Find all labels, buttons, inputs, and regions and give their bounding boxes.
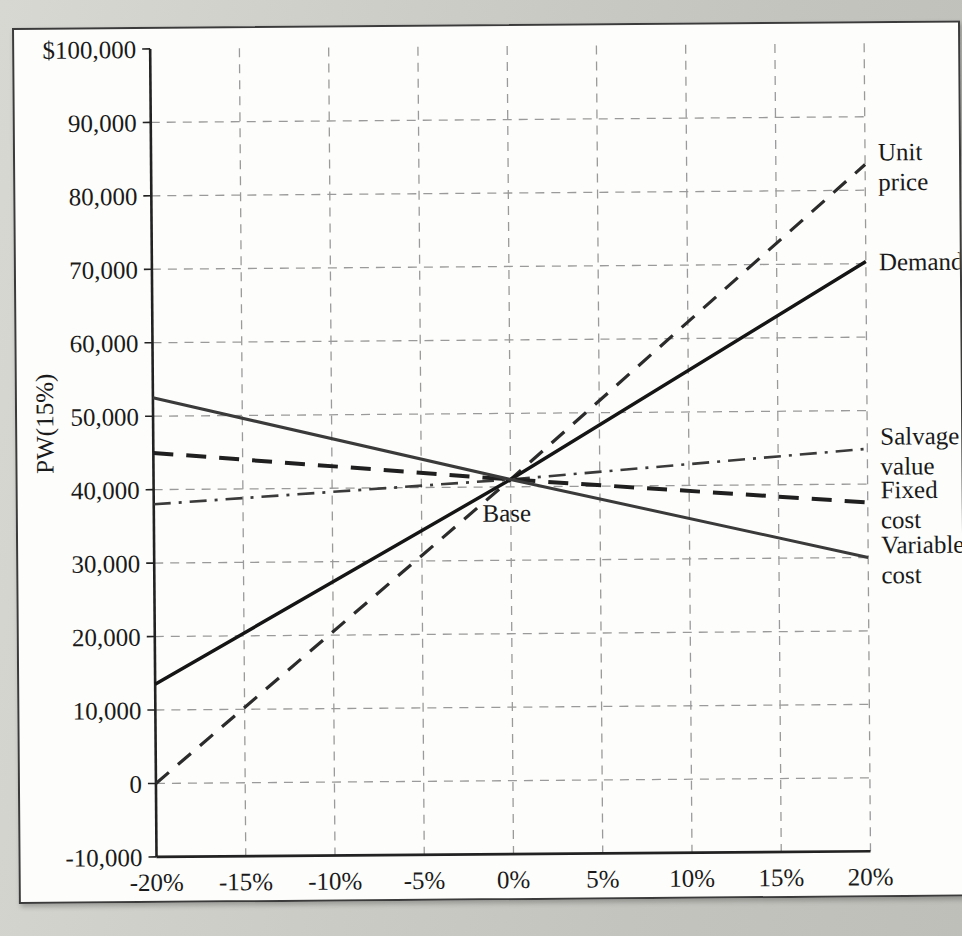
base-annotation: Base <box>482 499 531 526</box>
series-label-line: cost <box>881 506 922 533</box>
series-label-line: Salvage <box>880 422 959 450</box>
series-label-line: Unit <box>878 138 923 165</box>
gridline-horizontal <box>152 264 866 270</box>
series-line-unit-price <box>151 165 870 784</box>
vertical-gridlines <box>239 43 870 856</box>
base-point-label: Base <box>482 499 531 526</box>
series-label-fixed-cost: Fixedcost <box>881 476 939 533</box>
x-tick-label: 0% <box>497 866 531 893</box>
gridline-horizontal <box>155 631 869 637</box>
sensitivity-chart: $100,00090,00080,00070,00060,00050,00040… <box>14 23 962 902</box>
y-tick-label: 90,000 <box>68 109 137 137</box>
series-label-line: price <box>878 168 928 195</box>
y-axis-tick-labels: $100,00090,00080,00070,00060,00050,00040… <box>42 36 156 872</box>
data-series-lines <box>151 165 870 784</box>
x-tick-label: 10% <box>669 865 715 892</box>
gridline-vertical <box>775 44 781 852</box>
y-tick-label: 20,000 <box>72 624 141 652</box>
x-tick-label: 5% <box>586 865 620 892</box>
series-label-salvage-value: Salvagevalue <box>880 422 960 480</box>
y-tick-label: 80,000 <box>68 183 137 211</box>
y-tick-label: 40,000 <box>71 477 140 505</box>
y-tick-label: 10,000 <box>73 697 142 725</box>
gridline-vertical <box>507 46 513 854</box>
y-tick-label: 0 <box>129 771 142 798</box>
x-tick-label: -10% <box>308 867 362 894</box>
y-tick-label: 50,000 <box>70 403 139 431</box>
gridline-vertical <box>686 45 692 853</box>
y-tick-label: 30,000 <box>71 550 140 578</box>
gridline-vertical <box>239 48 245 856</box>
x-axis-tick-labels: -20%-15%-10%-5%0%5%10%15%20% <box>130 863 894 896</box>
series-label-line: Variable <box>881 531 962 559</box>
y-tick-label: 70,000 <box>69 256 138 284</box>
gridline-vertical <box>596 45 602 853</box>
x-tick-label: 15% <box>758 864 804 891</box>
x-tick-label: -15% <box>219 868 273 895</box>
series-label-variable-cost: Variablecost <box>881 531 962 589</box>
series-labels: UnitpriceDemandSalvagevalueFixedcostVari… <box>878 138 962 589</box>
x-tick-label: -20% <box>130 869 184 896</box>
series-label-demand: Demand <box>879 248 962 276</box>
gridline-vertical <box>418 47 424 855</box>
plot-area-wrapper: $100,00090,00080,00070,00060,00050,00040… <box>14 23 962 902</box>
series-label-unit-price: Unitprice <box>878 138 928 195</box>
y-tick-label: -10,000 <box>65 844 142 872</box>
series-label-line: Fixed <box>881 476 939 503</box>
series-label-line: Demand <box>879 248 962 276</box>
x-tick-label: -5% <box>404 867 446 894</box>
series-label-line: cost <box>881 561 922 588</box>
gridline-vertical <box>329 48 335 856</box>
y-axis-title: PW(15%) <box>31 374 60 474</box>
y-tick-label: $100,000 <box>42 36 136 64</box>
x-tick-label: 20% <box>848 863 894 890</box>
figure-page: $100,00090,00080,00070,00060,00050,00040… <box>0 0 962 936</box>
figure-card: $100,00090,00080,00070,00060,00050,00040… <box>12 21 962 904</box>
y-tick-label: 60,000 <box>70 330 139 358</box>
series-line-demand <box>152 261 869 684</box>
